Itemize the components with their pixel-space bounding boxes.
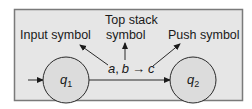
transition-push-symbol: c [148, 61, 155, 76]
annotation-input-symbol: Input symbol [20, 28, 91, 42]
transition-label: a,b→c [108, 61, 155, 76]
state-q1: q1 [43, 57, 89, 103]
annotation-top-stack-line1: Top stack [105, 13, 159, 27]
pda-transition-diagram: Input symbol Top stack symbol Push symbo… [0, 0, 252, 109]
transition-top-stack-symbol: b [122, 61, 129, 76]
annotation-push-symbol: Push symbol [168, 28, 240, 42]
state-q2: q2 [170, 57, 216, 103]
transition-separator: , [115, 61, 119, 76]
transition-arrow-glyph: → [132, 61, 145, 76]
annotation-top-stack-line2: symbol [106, 28, 146, 42]
transition-input-symbol: a [108, 61, 115, 76]
